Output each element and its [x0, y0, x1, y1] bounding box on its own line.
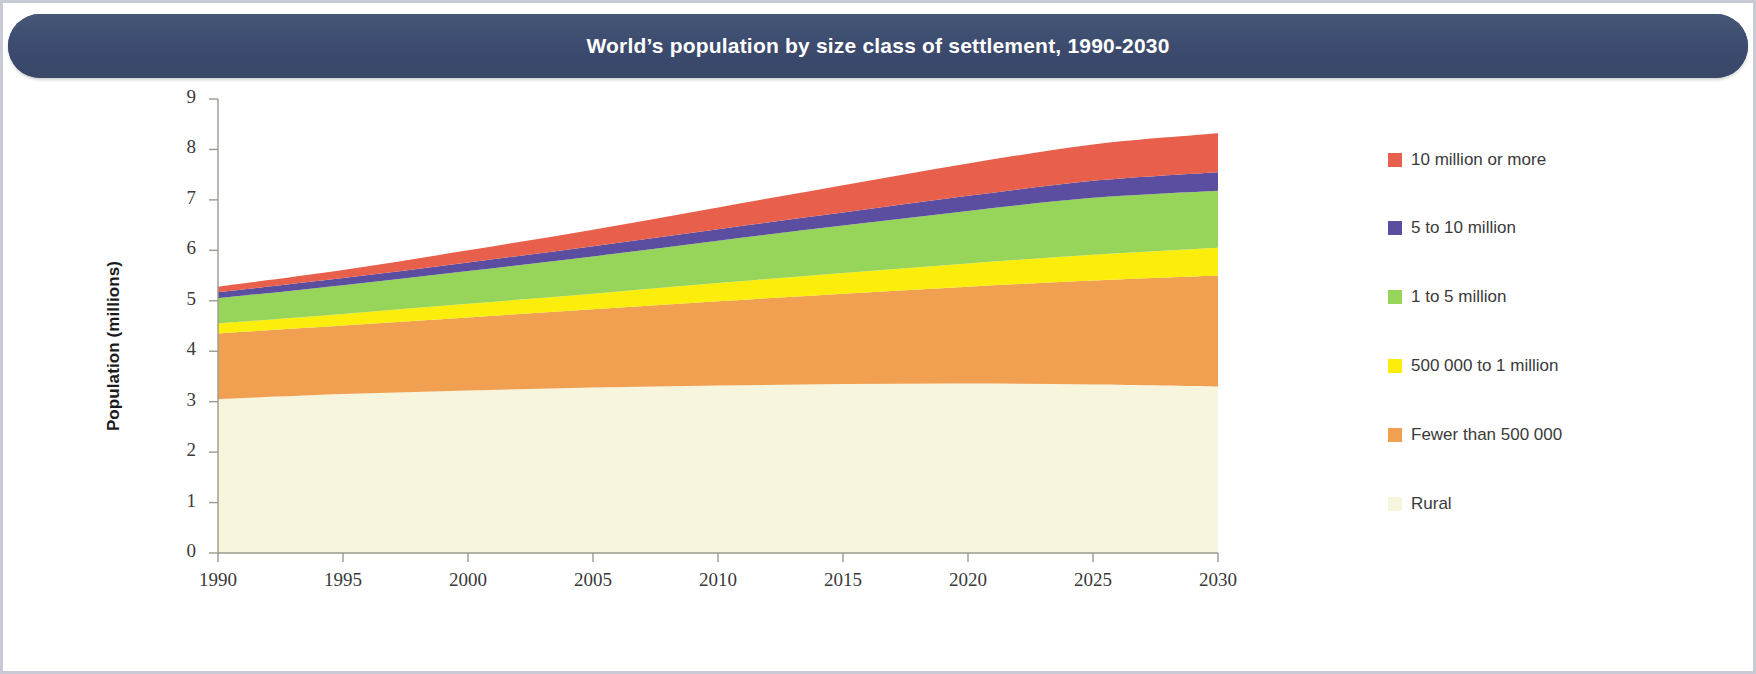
- x-axis-tick-label: 2000: [428, 569, 508, 591]
- y-axis-tick-label: 1: [156, 490, 196, 512]
- legend-swatch-icon: [1388, 428, 1402, 442]
- area-band-rural: [218, 383, 1218, 553]
- legend-swatch-icon: [1388, 153, 1402, 167]
- x-axis-tick-label: 2030: [1178, 569, 1258, 591]
- page-title: World’s population by size class of sett…: [8, 14, 1748, 78]
- x-axis-tick-label: 2015: [803, 569, 883, 591]
- legend-label: Rural: [1411, 494, 1452, 514]
- y-axis-tick-label: 7: [156, 187, 196, 209]
- legend-label: Fewer than 500 000: [1411, 425, 1562, 445]
- y-axis-tick-label: 3: [156, 389, 196, 411]
- legend-label: 500 000 to 1 million: [1411, 356, 1558, 376]
- legend-swatch-icon: [1388, 359, 1402, 373]
- y-axis-tick-label: 8: [156, 136, 196, 158]
- legend-item[interactable]: Fewer than 500 000: [1388, 424, 1562, 446]
- y-axis-tick-label: 0: [156, 540, 196, 562]
- legend-item[interactable]: 500 000 to 1 million: [1388, 355, 1558, 377]
- legend-item[interactable]: 10 million or more: [1388, 149, 1546, 171]
- legend-label: 5 to 10 million: [1411, 218, 1516, 238]
- x-axis-tick-label: 2020: [928, 569, 1008, 591]
- y-axis-tick-label: 9: [156, 86, 196, 108]
- legend-label: 10 million or more: [1411, 150, 1546, 170]
- y-axis-tick-label: 4: [156, 338, 196, 360]
- y-axis-tick-label: 2: [156, 439, 196, 461]
- legend-item[interactable]: 5 to 10 million: [1388, 217, 1516, 239]
- x-axis-tick-label: 1995: [303, 569, 383, 591]
- legend-item[interactable]: Rural: [1388, 493, 1452, 515]
- x-axis-tick-label: 2010: [678, 569, 758, 591]
- legend-label: 1 to 5 million: [1411, 287, 1506, 307]
- chart-area: Population (millions) 0123456789 1990199…: [0, 86, 1756, 674]
- y-axis-tick-label: 6: [156, 237, 196, 259]
- legend-swatch-icon: [1388, 290, 1402, 304]
- y-axis-tick-label: 5: [156, 288, 196, 310]
- title-banner: World’s population by size class of sett…: [8, 14, 1748, 78]
- x-axis-tick-label: 2005: [553, 569, 633, 591]
- legend-swatch-icon: [1388, 221, 1402, 235]
- x-axis-tick-label: 2025: [1053, 569, 1133, 591]
- legend-swatch-icon: [1388, 497, 1402, 511]
- x-axis-tick-label: 1990: [178, 569, 258, 591]
- legend-item[interactable]: 1 to 5 million: [1388, 286, 1506, 308]
